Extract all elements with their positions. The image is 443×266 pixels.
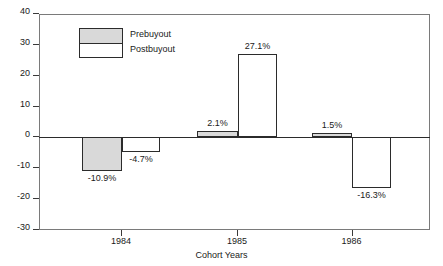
legend-label-postbuyout: Postbuyout xyxy=(130,45,175,54)
y-tick-mark xyxy=(33,13,39,14)
y-tick-label: 20 xyxy=(20,69,30,78)
bar-1985-postbuyout xyxy=(238,54,277,138)
y-tick-mark xyxy=(33,75,39,76)
bar-label-1984-postbuyout: -4.7% xyxy=(122,155,160,164)
x-tick-label-1984: 1984 xyxy=(91,236,151,246)
x-axis-title: Cohort Years xyxy=(0,250,443,260)
bar-1986-postbuyout xyxy=(352,137,391,187)
y-tick-label: 30 xyxy=(20,38,30,47)
y-tick-label: -10 xyxy=(17,161,30,170)
legend-label-prebuyout: Prebuyout xyxy=(130,30,171,39)
y-tick-mark xyxy=(33,44,39,45)
y-tick-label: -20 xyxy=(17,192,30,201)
x-tick-label-1985: 1985 xyxy=(207,236,267,246)
bar-1986-prebuyout xyxy=(312,133,352,138)
bar-label-1986-prebuyout: 1.5% xyxy=(312,121,352,130)
bar-label-1986-postbuyout: -16.3% xyxy=(352,191,391,200)
bar-label-1985-prebuyout: 2.1% xyxy=(197,119,238,128)
bar-label-1984-prebuyout: -10.9% xyxy=(82,174,122,183)
y-tick-mark xyxy=(33,106,39,107)
x-tick-label-1986: 1986 xyxy=(322,236,382,246)
y-tick-label: -30 xyxy=(17,223,30,232)
y-tick-label: 40 xyxy=(20,7,30,16)
y-tick-label: 0 xyxy=(25,130,30,139)
y-tick-label: 10 xyxy=(20,100,30,109)
legend xyxy=(79,28,123,58)
legend-swatch-prebuyout xyxy=(79,28,123,43)
y-tick-mark xyxy=(33,198,39,199)
bar-1985-prebuyout xyxy=(197,131,238,137)
legend-swatch-postbuyout xyxy=(79,43,123,58)
bar-1984-postbuyout xyxy=(122,137,160,152)
bar-1984-prebuyout xyxy=(82,137,122,171)
bar-chart: 403020100-10-20-30 -10.9%-4.7%2.1%27.1%1… xyxy=(0,0,443,266)
y-tick-mark xyxy=(33,167,39,168)
y-tick-mark xyxy=(33,229,39,230)
bar-label-1985-postbuyout: 27.1% xyxy=(238,42,277,51)
